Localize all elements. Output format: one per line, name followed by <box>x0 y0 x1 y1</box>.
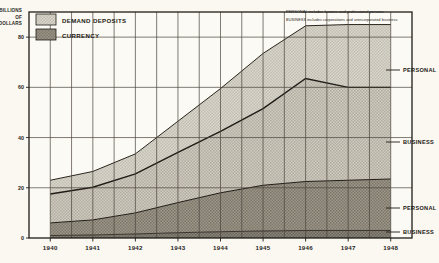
x-tick-label: 1942 <box>128 244 143 251</box>
legend-label-demand-deposits: DEMAND DEPOSITS <box>62 17 127 24</box>
y-axis-title-line-2: OF <box>15 15 22 20</box>
y-axis-title-line-3: DOLLARS <box>0 21 22 26</box>
x-tick-label: 1945 <box>256 244 271 251</box>
x-tick-label: 1940 <box>43 244 58 251</box>
x-tick-label: 1944 <box>213 244 228 251</box>
callout-label-currency-personal: PERSONAL <box>403 205 437 211</box>
chart-figure: 020406080 194019411942194319441945194619… <box>0 0 439 263</box>
y-axis-title-line-1: BILLIONS <box>0 8 22 13</box>
x-tick-label: 1947 <box>341 244 356 251</box>
area-chart-svg: 020406080 194019411942194319441945194619… <box>0 0 439 263</box>
plot-area <box>29 12 412 238</box>
legend-swatch-currency <box>36 29 56 40</box>
x-tick-label: 1946 <box>298 244 313 251</box>
x-tick-label: 1941 <box>85 244 100 251</box>
callout-label-deposits-personal: PERSONAL <box>403 67 437 73</box>
y-tick-label: 0 <box>21 235 24 241</box>
chart-canvas: 020406080 194019411942194319441945194619… <box>0 0 439 263</box>
y-tick-label: 40 <box>18 135 24 141</box>
x-tick-label: 1948 <box>383 244 398 251</box>
note-line-personal: PERSONAL includes farmers and profession… <box>286 9 384 14</box>
callout-label-currency-business: BUSINESS <box>403 229 434 235</box>
callout-label-deposits-business: BUSINESS <box>403 139 434 145</box>
y-tick-label: 60 <box>18 84 24 90</box>
x-tick-label: 1943 <box>170 244 185 251</box>
legend-swatch-demand-deposits <box>36 14 56 25</box>
y-tick-label: 20 <box>18 185 24 191</box>
note-line-business: BUSINESS includes corporations and uninc… <box>286 17 397 22</box>
y-tick-label: 80 <box>18 34 24 40</box>
legend-label-currency: CURRENCY <box>62 32 99 39</box>
